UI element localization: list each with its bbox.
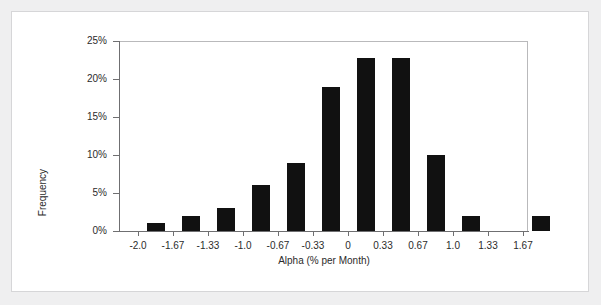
y-axis-line [119, 41, 120, 232]
y-tick-label-5: 25% [67, 36, 107, 46]
y-tick-0 [113, 231, 119, 232]
y-tick-1 [113, 193, 119, 194]
y-axis-title: Frequency [37, 143, 48, 243]
x-tick-8 [418, 231, 419, 236]
bar [252, 185, 270, 231]
bar [182, 216, 200, 231]
bar [427, 155, 445, 231]
y-tick-5 [113, 41, 119, 42]
x-axis-line [119, 231, 529, 232]
y-tick-label-4: 20% [67, 74, 107, 84]
x-tick-2 [208, 231, 209, 236]
x-tick-label-11: 1.67 [500, 240, 546, 251]
x-tick-1 [173, 231, 174, 236]
y-tick-4 [113, 79, 119, 80]
y-tick-label-3: 15% [67, 112, 107, 122]
bar [462, 216, 480, 231]
y-tick-label-1: 5% [67, 188, 107, 198]
y-tick-3 [113, 117, 119, 118]
x-tick-3 [243, 231, 244, 236]
y-tick-label-0: 0% [67, 226, 107, 236]
bar [322, 87, 340, 231]
bar [287, 163, 305, 231]
figure-frame: 0% 5% 10% 15% 20% 25% -2.0 -1.67 -1. [11, 11, 589, 292]
y-axis-title-holder: Frequency [22, 87, 62, 187]
x-tick-10 [488, 231, 489, 236]
bar [392, 58, 410, 231]
y-tick-label-2: 10% [67, 150, 107, 160]
x-tick-9 [453, 231, 454, 236]
bar [357, 58, 375, 231]
x-axis-title: Alpha (% per Month) [119, 255, 529, 266]
histogram-chart: 0% 5% 10% 15% 20% 25% -2.0 -1.67 -1. [12, 12, 590, 293]
bar [532, 216, 550, 231]
x-tick-6 [348, 231, 349, 236]
y-tick-2 [113, 155, 119, 156]
x-tick-7 [383, 231, 384, 236]
x-tick-0 [138, 231, 139, 236]
x-tick-4 [278, 231, 279, 236]
bar [217, 208, 235, 231]
bar [147, 223, 165, 231]
x-tick-11 [523, 231, 524, 236]
x-tick-5 [313, 231, 314, 236]
